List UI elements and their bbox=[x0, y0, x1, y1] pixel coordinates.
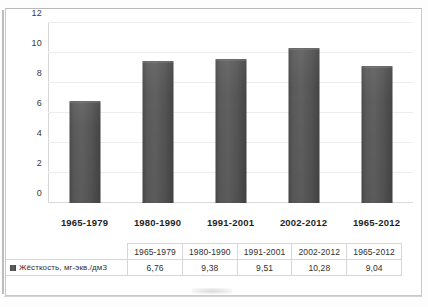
chart-data-table: 1965-19791980-19901991-20012002-20121965… bbox=[6, 243, 402, 276]
scanned-page: 024681012 1965-19791980-19901991-2001200… bbox=[0, 0, 428, 307]
y-tick-label-0: 0 bbox=[37, 188, 42, 198]
scan-edge-bottom bbox=[4, 296, 422, 297]
table-column-header: 1991-2001 bbox=[237, 244, 292, 260]
table-value-cell: 9,38 bbox=[182, 260, 237, 276]
bar-slot bbox=[267, 23, 340, 203]
x-label-1991-2001: 1991-2001 bbox=[207, 217, 254, 228]
table-header-row: 1965-19791980-19901991-20012002-20121965… bbox=[6, 244, 402, 260]
table-column-header: 2002-2012 bbox=[292, 244, 347, 260]
y-tick-label-2: 2 bbox=[37, 158, 42, 168]
y-tick-label-10: 10 bbox=[32, 38, 42, 48]
bar-chart: 024681012 1965-19791980-19901991-2001200… bbox=[6, 9, 421, 221]
table-corner-cell bbox=[6, 244, 128, 260]
table-series-label-cell: Жёсткость, мг-экв./дм3 bbox=[6, 260, 128, 276]
x-label-1980-1990: 1980-1990 bbox=[134, 217, 181, 228]
x-label-1965-1979: 1965-1979 bbox=[61, 217, 108, 228]
bar-slot bbox=[194, 23, 267, 203]
series-label-text: Жёсткость, мг-экв./дм3 bbox=[19, 263, 107, 272]
x-label-1965-2012: 1965-2012 bbox=[353, 217, 400, 228]
x-axis-category-labels: 1965-19791980-19901991-20012002-20121965… bbox=[48, 217, 413, 231]
bar-series bbox=[48, 23, 413, 203]
table-value-cell: 10,28 bbox=[292, 260, 347, 276]
table-column-header: 1965-1979 bbox=[128, 244, 183, 260]
scan-smudge bbox=[192, 288, 232, 294]
y-tick-label-12: 12 bbox=[32, 8, 42, 18]
bar-1965-2012 bbox=[361, 66, 392, 203]
table-column-header: 1965-2012 bbox=[347, 244, 402, 260]
table-column-header: 1980-1990 bbox=[182, 244, 237, 260]
bar-1965-1979 bbox=[69, 101, 100, 203]
y-tick-label-8: 8 bbox=[37, 68, 42, 78]
scan-edge-left bbox=[2, 10, 4, 294]
table-value-cell: 6,76 bbox=[128, 260, 183, 276]
bar-1980-1990 bbox=[142, 61, 173, 203]
bar-slot bbox=[121, 23, 194, 203]
table-value-cell: 9,04 bbox=[347, 260, 402, 276]
table-row: Жёсткость, мг-экв./дм3 6,769,389,5110,28… bbox=[6, 260, 402, 276]
bar-slot bbox=[340, 23, 413, 203]
bar-1991-2001 bbox=[215, 59, 246, 203]
bar-2002-2012 bbox=[288, 48, 319, 203]
table-value-cell: 9,51 bbox=[237, 260, 292, 276]
plot-area: 024681012 bbox=[48, 23, 413, 203]
y-tick-label-4: 4 bbox=[37, 128, 42, 138]
y-tick-label-6: 6 bbox=[37, 98, 42, 108]
bar-slot bbox=[48, 23, 121, 203]
legend-swatch-icon bbox=[10, 265, 16, 271]
x-label-2002-2012: 2002-2012 bbox=[280, 217, 327, 228]
